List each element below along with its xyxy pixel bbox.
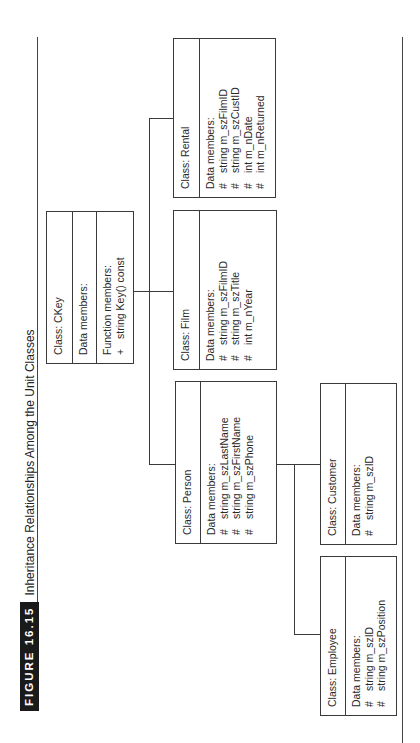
figure-title: Inheritance Relationships Among the Unit… <box>23 329 37 601</box>
class-name: Class: Customer <box>326 458 339 536</box>
class-name: Class: Film <box>179 309 192 361</box>
compartment-divider <box>96 212 97 363</box>
class-name: Class: Employee <box>326 628 339 707</box>
compartment-divider <box>345 557 346 715</box>
class-box-rental: Class: Rental Data members: #string m_sz… <box>173 38 276 198</box>
figure-label: FIGURE 16.15 <box>20 602 39 711</box>
class-name: Class: CKey <box>52 297 65 355</box>
class-box-ckey: Class: CKey Data members: Function membe… <box>46 211 134 364</box>
compartment-divider <box>199 211 200 369</box>
connector-rental <box>149 118 173 119</box>
bottom-rule <box>402 37 403 743</box>
compartment-divider <box>199 39 200 197</box>
compartment-divider <box>72 212 73 363</box>
connector-person-customer <box>276 464 320 465</box>
data-members: Data members: #string m_szFilmID #string… <box>204 261 254 361</box>
function-members: Function members: +string Key() const <box>101 257 126 355</box>
data-members: Data members: #string m_szID <box>350 456 375 536</box>
data-members: Data members: #string m_szFilmID #string… <box>204 87 267 189</box>
compartment-divider <box>345 384 346 544</box>
connector-employee <box>294 634 320 635</box>
connector-ckey-film <box>133 291 174 292</box>
data-members-header: Data members: <box>77 283 90 355</box>
connector-person <box>149 464 175 465</box>
class-name: Class: Person <box>181 470 194 535</box>
class-box-customer: Class: Customer Data members: #string m_… <box>320 383 397 545</box>
data-members: Data members: #string m_szID #string m_s… <box>350 600 388 707</box>
class-box-employee: Class: Employee Data members: #string m_… <box>320 556 397 716</box>
class-box-film: Class: Film Data members: #string m_szFi… <box>173 210 277 370</box>
compartment-divider <box>200 382 201 543</box>
connector-subtrunk <box>294 464 295 635</box>
figure-caption: FIGURE 16.15Inheritance Relationships Am… <box>20 329 39 711</box>
class-name: Class: Rental <box>179 127 192 189</box>
class-box-person: Class: Person Data members: #string m_sz… <box>175 381 277 544</box>
data-members: Data members: #string m_szLastName #stri… <box>205 417 255 535</box>
